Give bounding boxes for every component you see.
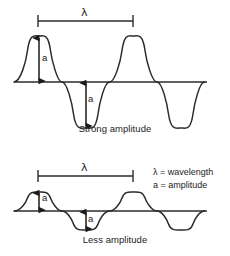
legend-line-wavelength: λ = wavelength bbox=[153, 166, 213, 179]
bottom-wavelength-symbol: λ bbox=[81, 161, 88, 174]
top-amplitude-label-trough: a bbox=[88, 93, 93, 104]
legend-line-amplitude: a = amplitude bbox=[153, 179, 213, 192]
bottom-amplitude-label-crest: a bbox=[42, 192, 47, 203]
top-amplitude-label-crest: a bbox=[42, 52, 47, 63]
bottom-panel-caption: Less amplitude bbox=[0, 234, 230, 245]
top-wavelength-symbol: λ bbox=[81, 6, 88, 19]
top-panel-caption: Strong amplitude bbox=[0, 123, 230, 134]
bottom-amplitude-label-trough: a bbox=[88, 213, 93, 224]
legend: λ = wavelength a = amplitude bbox=[153, 166, 213, 191]
